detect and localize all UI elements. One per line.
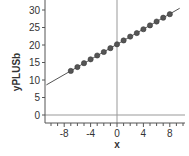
fit-line <box>46 8 179 85</box>
data-point <box>167 12 172 17</box>
data-point <box>114 42 119 47</box>
x-axis-label: x <box>114 139 120 150</box>
y-tick-label: 0 <box>34 110 40 121</box>
scatter-chart: 051015202530-8-4048 x yPLUSb <box>0 0 189 156</box>
y-tick-label: 5 <box>34 92 40 103</box>
data-point <box>81 61 86 66</box>
y-tick-label: 30 <box>29 5 41 16</box>
data-point <box>154 19 159 24</box>
y-tick-label: 15 <box>29 57 41 68</box>
data-point <box>108 46 113 51</box>
plot-area <box>45 0 185 123</box>
data-point <box>128 34 133 39</box>
y-tick-label: 20 <box>29 40 41 51</box>
x-tick-label: 8 <box>167 128 173 139</box>
data-point <box>101 49 106 54</box>
x-tick-label: 4 <box>141 128 147 139</box>
y-tick-label: 25 <box>29 22 41 33</box>
x-tick-label: -4 <box>86 128 95 139</box>
data-point <box>75 64 80 69</box>
data-point <box>161 15 166 20</box>
data-point <box>141 27 146 32</box>
x-tick-label: 0 <box>114 128 120 139</box>
axes: 051015202530-8-4048 <box>29 0 185 139</box>
data-point <box>88 57 93 62</box>
data-point <box>134 30 139 35</box>
data-point <box>95 53 100 58</box>
y-axis-label: yPLUSb <box>11 53 22 91</box>
data-point <box>68 68 73 73</box>
data-point <box>147 23 152 28</box>
data-point <box>121 38 126 43</box>
y-tick-label: 10 <box>29 75 41 86</box>
x-tick-label: -8 <box>60 128 69 139</box>
